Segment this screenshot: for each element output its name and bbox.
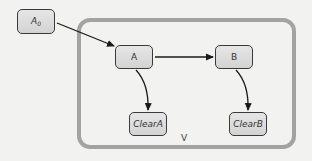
node-a-label: A — [131, 52, 137, 62]
node-cleara: ClearA — [129, 112, 167, 136]
node-b: B — [215, 45, 253, 69]
node-b-label: B — [231, 52, 237, 62]
node-a0-label: A0 — [31, 16, 41, 27]
diagram-canvas: V A0 A B ClearA ClearB — [0, 0, 312, 161]
container-label: V — [181, 133, 187, 143]
node-clearb: ClearB — [229, 112, 267, 136]
node-cleara-label: ClearA — [133, 119, 163, 129]
node-a0: A0 — [17, 9, 55, 34]
node-clearb-label: ClearB — [233, 119, 263, 129]
node-a: A — [115, 45, 153, 69]
